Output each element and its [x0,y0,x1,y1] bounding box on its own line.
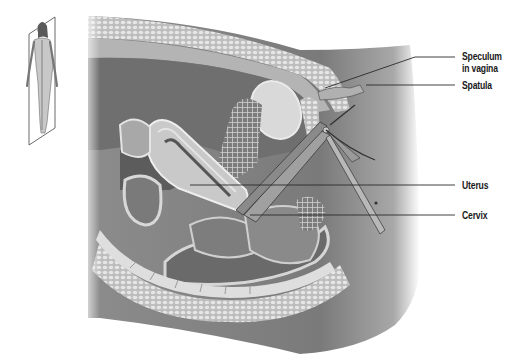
anatomy-illustration [0,0,523,356]
label-uterus: Uterus [462,179,488,191]
label-speculum-line2: in vagina [462,62,519,74]
pelvic-section [80,10,420,354]
label-speculum-line1: Speculum [462,50,519,62]
label-spatula: Spatula [462,79,492,91]
orientation-figure-icon [27,17,57,145]
label-speculum: Speculum in vagina [462,50,519,74]
label-cervix: Cervix [462,209,487,221]
